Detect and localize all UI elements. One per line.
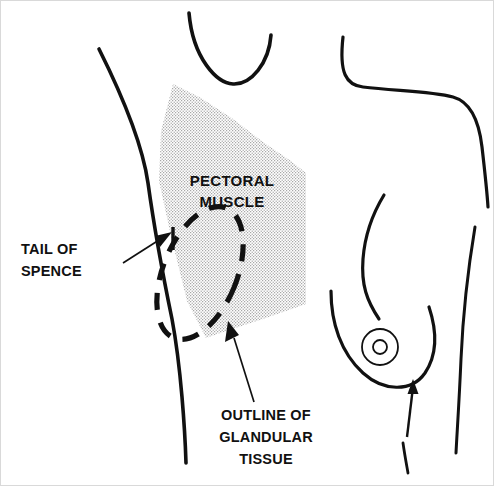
glandular-label-line2: GLANDULAR bbox=[219, 429, 313, 445]
tail-of-spence-label-line2: SPENCE bbox=[21, 263, 82, 279]
diagram-canvas: PECTORAL MUSCLE TAIL OF SPENCE OUTLINE O… bbox=[0, 0, 494, 486]
glandular-label-line3: TISSUE bbox=[239, 451, 293, 467]
glandular-label-line1: OUTLINE OF bbox=[221, 407, 311, 423]
pectoral-label-line2: MUSCLE bbox=[199, 193, 264, 210]
breast-anatomy-diagram: PECTORAL MUSCLE TAIL OF SPENCE OUTLINE O… bbox=[1, 1, 494, 486]
pectoral-label-line1: PECTORAL bbox=[190, 172, 275, 189]
tail-of-spence-label-line1: TAIL OF bbox=[21, 241, 77, 257]
